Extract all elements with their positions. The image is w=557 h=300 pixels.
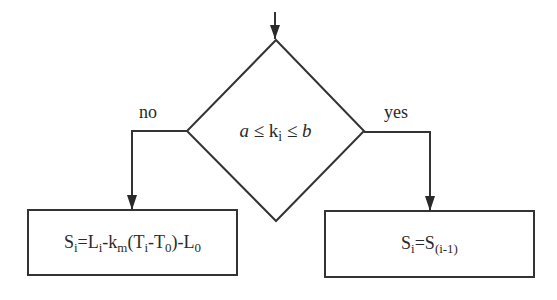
no-box-formula: Si=Li-km(Ti-T0)-L0 <box>28 232 237 253</box>
formula-term: L <box>88 232 99 252</box>
formula-equals: = <box>415 233 425 253</box>
no-branch-label: no <box>139 103 157 121</box>
formula-term: T <box>133 232 144 252</box>
formula-term: L <box>184 232 195 252</box>
yes-branch-label: yes <box>384 103 408 121</box>
flowchart-canvas <box>0 0 557 300</box>
variable: k <box>269 120 279 141</box>
operator-le-2: ≤ <box>287 120 297 141</box>
formula-term: S <box>64 232 74 252</box>
decision-condition: a ≤ ki ≤ b <box>187 120 364 142</box>
no-branch-connector <box>127 131 187 210</box>
upper-bound: b <box>302 120 312 141</box>
yes-box-formula: Si=S(i-1) <box>325 233 534 254</box>
variable-subscript: i <box>278 129 282 144</box>
formula-term: S <box>401 233 411 253</box>
formula-term: S <box>425 233 435 253</box>
entry-arrow <box>270 12 280 39</box>
lower-bound: a <box>239 120 249 141</box>
formula-equals: = <box>78 232 88 252</box>
formula-subscript: 0 <box>195 240 201 255</box>
formula-term: T <box>154 232 165 252</box>
formula-term: k <box>108 232 117 252</box>
operator-le-1: ≤ <box>254 120 264 141</box>
yes-branch-connector <box>364 132 435 211</box>
formula-subscript: m <box>117 240 127 255</box>
formula-subscript: (i-1) <box>435 241 458 256</box>
